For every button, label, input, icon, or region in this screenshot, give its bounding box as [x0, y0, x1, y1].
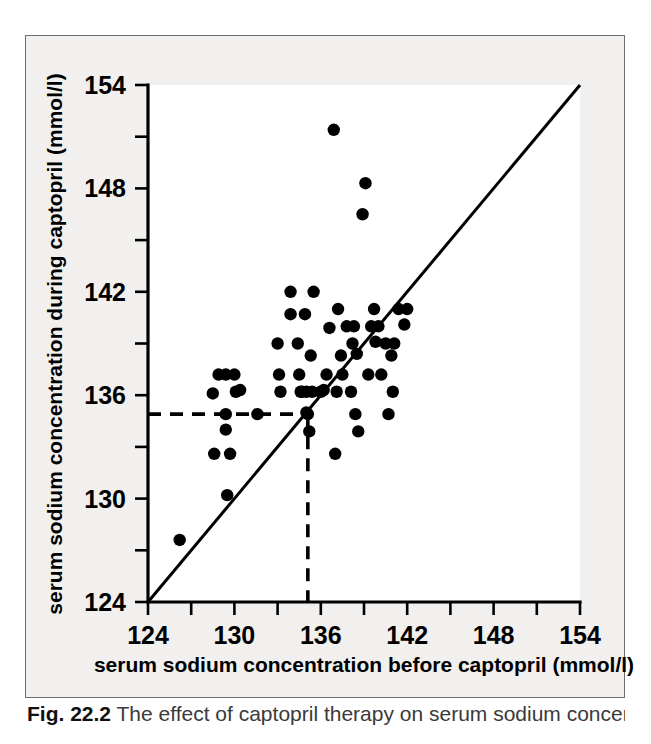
data-point	[317, 384, 329, 396]
data-point	[330, 386, 342, 398]
data-point	[292, 337, 304, 349]
figure-caption-label: Fig. 22.2	[27, 706, 111, 725]
x-tick-label: 148	[473, 621, 515, 649]
data-point	[234, 384, 246, 396]
data-point	[320, 368, 332, 380]
data-point	[220, 408, 232, 420]
figure-caption: Fig. 22.2 The effect of captopril therap…	[25, 706, 625, 744]
data-point	[372, 320, 384, 332]
data-point	[329, 448, 341, 460]
data-point	[332, 303, 344, 315]
data-point	[220, 423, 232, 435]
data-point	[299, 308, 311, 320]
data-point	[345, 386, 357, 398]
y-axis-title: serum sodium concentration during captop…	[43, 73, 66, 614]
data-point	[348, 320, 360, 332]
data-point	[352, 425, 364, 437]
data-point	[336, 368, 348, 380]
x-axis-title: serum sodium concentration before captop…	[94, 653, 634, 676]
data-point	[362, 368, 374, 380]
data-point	[173, 534, 185, 546]
data-point	[293, 368, 305, 380]
data-point	[271, 337, 283, 349]
data-point	[349, 408, 361, 420]
x-tick-label: 124	[127, 621, 169, 649]
figure-caption-text: Fig. 22.2 The effect of captopril therap…	[27, 706, 625, 726]
y-tick-labels: 124130136142148154	[84, 71, 126, 616]
data-point	[207, 387, 219, 399]
data-point	[388, 337, 400, 349]
data-point	[303, 425, 315, 437]
data-point	[398, 318, 410, 330]
x-tick-label: 130	[214, 621, 256, 649]
figure-caption-body: The effect of captopril therapy on serum…	[117, 706, 626, 725]
x-tick-label: 154	[559, 621, 601, 649]
data-point	[368, 303, 380, 315]
scatter-chart: 124130136142148154 124130136142148154 se…	[0, 0, 651, 744]
data-point	[221, 489, 233, 501]
data-point	[359, 177, 371, 189]
data-point	[274, 386, 286, 398]
x-tick-label: 142	[386, 621, 428, 649]
data-point	[356, 208, 368, 220]
data-point	[251, 408, 263, 420]
data-point	[208, 448, 220, 460]
y-tick-label: 124	[84, 588, 126, 616]
data-point	[382, 408, 394, 420]
y-tick-label: 142	[84, 278, 126, 306]
data-point	[273, 368, 285, 380]
data-point	[401, 303, 413, 315]
data-point	[284, 286, 296, 298]
data-point	[284, 308, 296, 320]
y-tick-label: 154	[84, 71, 126, 99]
data-point	[224, 448, 236, 460]
data-point	[307, 286, 319, 298]
data-point	[387, 386, 399, 398]
x-tick-label: 136	[300, 621, 342, 649]
data-point	[305, 349, 317, 361]
data-point	[335, 349, 347, 361]
figure-root: 124130136142148154 124130136142148154 se…	[0, 0, 651, 744]
data-point	[375, 368, 387, 380]
data-point	[323, 322, 335, 334]
data-point	[328, 124, 340, 136]
x-tick-labels: 124130136142148154	[127, 621, 601, 649]
y-tick-label: 136	[84, 381, 126, 409]
y-axis-ticks	[135, 85, 148, 602]
data-point	[302, 408, 314, 420]
y-tick-label: 148	[84, 174, 126, 202]
y-tick-label: 130	[84, 485, 126, 513]
x-axis-ticks	[148, 602, 580, 615]
data-point	[351, 348, 363, 360]
data-point	[228, 368, 240, 380]
data-point	[385, 349, 397, 361]
